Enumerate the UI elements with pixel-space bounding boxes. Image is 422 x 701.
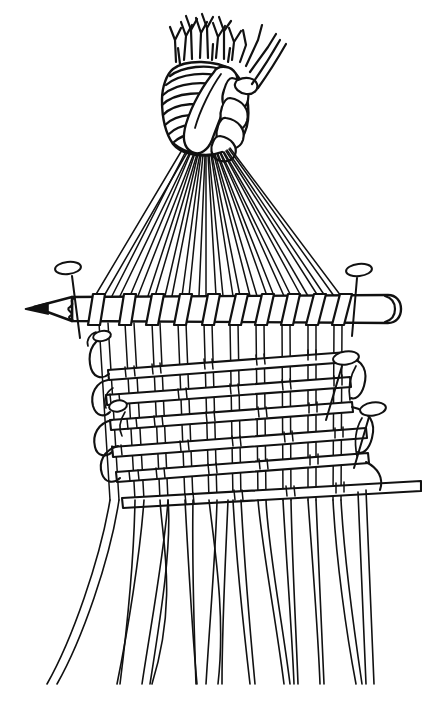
weaving-diagram: [0, 0, 422, 701]
pencil: [25, 294, 401, 325]
illustration-canvas: Weaving on a pencil loom Hand-drawn line…: [0, 0, 422, 701]
